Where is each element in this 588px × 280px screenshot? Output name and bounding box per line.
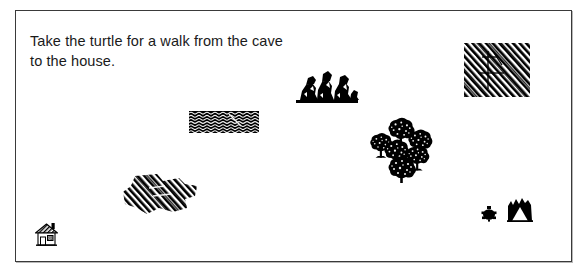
turtle-icon[interactable] <box>480 205 498 223</box>
turtle-walk-canvas[interactable]: Take the turtle for a walk from the cave… <box>15 10 572 262</box>
tree-cluster[interactable] <box>369 113 437 183</box>
water-patch[interactable] <box>189 111 259 133</box>
instruction-text: Take the turtle for a walk from the cave… <box>30 31 370 71</box>
cave-icon[interactable] <box>507 197 533 222</box>
screen: Take the turtle for a walk from the cave… <box>0 0 588 280</box>
rock-cluster[interactable] <box>294 67 362 107</box>
house-icon[interactable] <box>34 220 60 248</box>
terrain-patch-rect[interactable] <box>464 43 530 97</box>
terrain-patch-blob[interactable] <box>119 172 199 216</box>
